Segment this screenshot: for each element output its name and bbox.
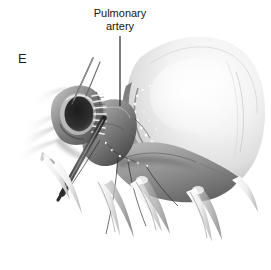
callout-label-line-2: artery [72,20,168,33]
callout-label-line-1: Pulmonary [72,7,168,20]
surgical-illustration [0,0,271,270]
figure-canvas: Pulmonary artery E [0,0,271,270]
panel-letter: E [18,52,27,65]
callout-label-pulmonary-artery: Pulmonary artery [72,7,168,33]
